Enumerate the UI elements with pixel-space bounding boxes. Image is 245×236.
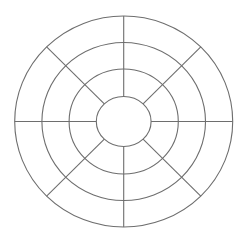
concentric-circle-wheel (0, 0, 245, 236)
spoke-225deg (47, 139, 105, 196)
ring-wheel-diagram (0, 0, 245, 236)
spoke-315deg (143, 139, 201, 196)
spokes-group (15, 16, 233, 227)
ring-1 (96, 97, 151, 147)
spoke-135deg (47, 47, 105, 104)
spoke-45deg (143, 47, 201, 104)
